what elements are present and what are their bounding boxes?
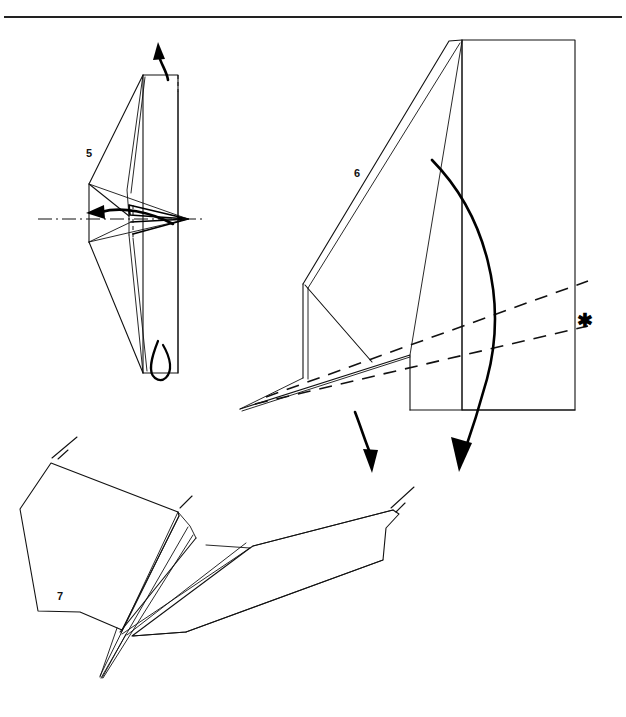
fig5-lower-left-flap [89,242,143,373]
fig7-left-wing-crease-f [102,634,126,678]
figure-7-group [20,437,414,678]
fig5-pull-up-arrowhead[interactable] [153,42,165,60]
fig7-central-spine-upper [120,538,196,632]
fig6-dashed-guide-lower [255,326,588,404]
fig7-left-wing-crease-d [103,535,193,678]
fig5-upper-left-flap [89,75,143,216]
asterisk-marker: ✱ [577,310,593,331]
fig7-tick-mark-1a [52,437,77,458]
fig5-beak-lower [131,219,188,234]
fig6-fold-down-arrow-shaft[interactable] [355,412,371,455]
fig6-lower-slope-edge-inner-2 [242,357,410,411]
fig6-fold-over-arrow-shaft[interactable] [432,160,495,456]
figure-5-label: 5 [86,147,92,159]
fig6-apex-to-notch-crease [410,41,462,355]
fig7-body-hook [178,512,196,538]
figure-6-group: ✱ [240,40,593,473]
fig5-fold-under-loop-arrow[interactable] [151,341,170,380]
fig5-pull-up-arrow-shaft[interactable] [159,56,168,80]
fig5-lower-inner-fold-b [133,238,147,371]
figure-6-label: 6 [354,167,360,179]
fig6-dashed-guide-upper [266,281,588,397]
fig5-lower-inner-fold-a [129,235,143,373]
fig5-upper-inner-fold-a [127,75,143,216]
fig7-right-wing-crease-a [253,510,393,546]
fig7-left-wing-outline [20,463,179,630]
fig6-lower-slope-edge-inner [240,378,303,409]
figure-7-label: 7 [57,590,63,602]
fig7-right-wing-crease-c [133,632,186,636]
diagram-page: ✱ [0,0,626,717]
fig6-inner-diagonal-crease [305,285,372,362]
fig7-tick-mark-2a [180,496,192,508]
fig7-central-spine-lower-2 [127,543,246,635]
origami-diagram-canvas: ✱ [0,0,626,717]
figure-5-group [38,42,204,380]
fig5-lower-diag-fold [89,222,131,242]
fig6-fold-down-arrowhead[interactable] [363,449,378,473]
fig6-fold-over-arrowhead[interactable] [451,437,472,472]
fig7-tick-mark-3b [396,503,405,512]
fig6-spine-outer [303,40,462,284]
fig6-back-panel [462,40,575,410]
fig7-left-wing-crease-b [100,516,179,676]
